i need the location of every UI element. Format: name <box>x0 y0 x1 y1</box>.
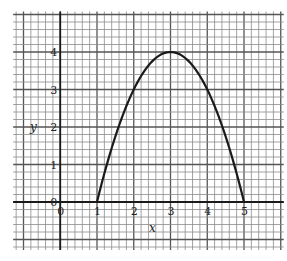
x-tick-label: 1 <box>94 205 101 218</box>
y-tick-label: 1 <box>50 159 57 172</box>
y-tick-label: 3 <box>50 84 57 97</box>
x-tick-label: 4 <box>204 205 211 218</box>
x-tick-label: 3 <box>168 205 175 218</box>
x-tick-label: 0 <box>57 205 64 218</box>
y-tick-label: 2 <box>50 121 57 134</box>
y-tick-label: 4 <box>50 46 57 59</box>
x-tick-label: 2 <box>131 205 138 218</box>
x-tick-labels: 012345 <box>57 205 248 218</box>
parabola-plot: 012345 01234 x y <box>0 0 287 261</box>
y-axis-label: y <box>29 120 37 134</box>
y-tick-labels: 01234 <box>50 46 57 209</box>
y-tick-label: 0 <box>50 196 57 209</box>
x-axis-label: x <box>149 221 156 235</box>
x-tick-label: 5 <box>241 205 248 218</box>
graph-paper-figure: 012345 01234 x y <box>0 0 287 261</box>
